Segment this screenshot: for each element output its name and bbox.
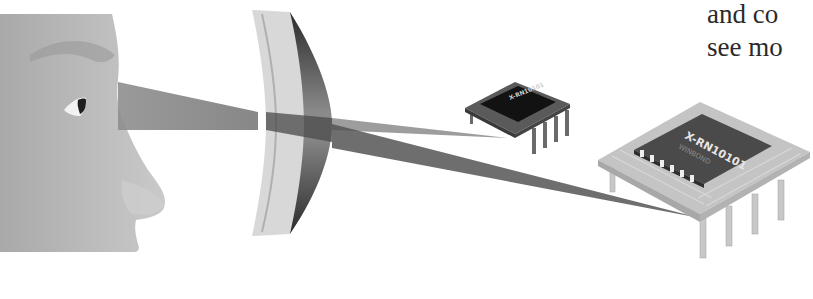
- light-beam-to-lens: [118, 82, 258, 130]
- large-chip: X-RN10101 WINBOND: [598, 102, 810, 258]
- caption-line-1: and co: [707, 0, 783, 31]
- face-profile: [0, 14, 165, 252]
- caption-text: and co see mo: [707, 0, 783, 64]
- lens-magnification-illustration: X-RN10101 X-RN10101: [0, 0, 813, 299]
- caption-line-2: see mo: [707, 31, 783, 64]
- lens: [252, 10, 332, 236]
- small-chip: X-RN10101: [465, 81, 570, 154]
